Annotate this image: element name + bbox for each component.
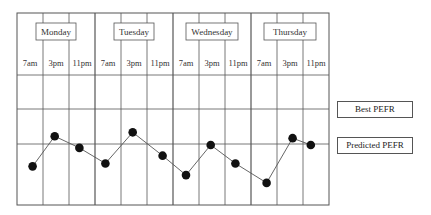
data-point: [28, 162, 37, 171]
day-label: Tuesday: [114, 23, 154, 40]
day-label: Wednesday: [186, 23, 238, 40]
legend-predicted-pefr-label: Predicted PEFR: [346, 140, 404, 150]
day-label: Monday: [36, 23, 76, 40]
time-label: 7am: [101, 58, 116, 68]
time-label: 7am: [179, 58, 194, 68]
time-label: 3pm: [204, 58, 220, 68]
legend-best-pefr-label: Best PEFR: [355, 104, 395, 114]
data-point: [206, 141, 215, 150]
svg-text:Tuesday: Tuesday: [119, 27, 150, 37]
legend-best-pefr: Best PEFR: [337, 101, 413, 118]
grid: [17, 13, 329, 205]
time-label: 11pm: [150, 58, 169, 68]
svg-text:Monday: Monday: [41, 27, 71, 37]
data-point: [50, 132, 59, 141]
data-point: [158, 151, 167, 160]
data-point: [231, 159, 240, 168]
time-label: 3pm: [282, 58, 298, 68]
data-point: [288, 134, 297, 143]
data-point: [101, 159, 110, 168]
svg-text:Wednesday: Wednesday: [191, 27, 233, 37]
data-point: [75, 144, 84, 153]
time-label: 3pm: [126, 58, 142, 68]
svg-text:Thursday: Thursday: [273, 27, 307, 37]
data-point: [182, 171, 191, 180]
time-label: 11pm: [306, 58, 325, 68]
time-label: 7am: [257, 58, 272, 68]
time-label: 11pm: [72, 58, 91, 68]
data-point: [128, 128, 137, 137]
data-point: [307, 141, 316, 150]
data-point: [262, 179, 271, 188]
time-label: 7am: [23, 58, 38, 68]
pefr-line: [33, 132, 311, 183]
time-label: 3pm: [48, 58, 64, 68]
time-label: 11pm: [228, 58, 247, 68]
legend-predicted-pefr: Predicted PEFR: [337, 137, 413, 154]
day-label: Thursday: [264, 23, 316, 40]
